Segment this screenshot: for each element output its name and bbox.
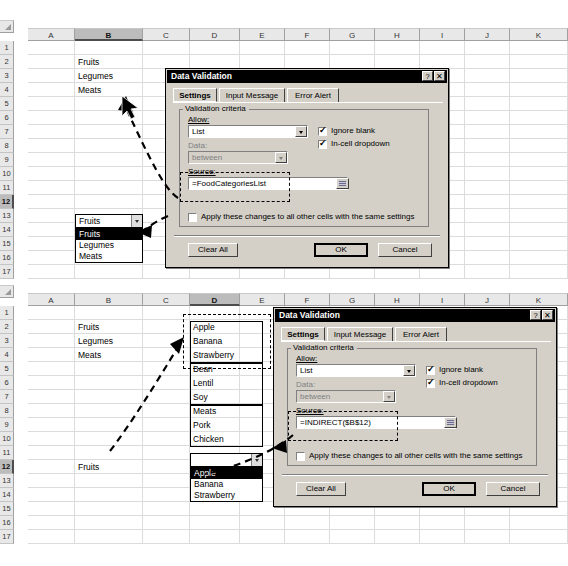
dropdown-list-bottom[interactable]: Apple Banana Strawberry <box>190 467 263 502</box>
data-validation-dialog-top[interactable]: Data Validation ? ✕ Settings Input Messa… <box>165 68 449 268</box>
cell-d16[interactable] <box>190 516 240 530</box>
cell-g17[interactable] <box>330 530 375 544</box>
cell-k7[interactable] <box>510 125 568 139</box>
row-header-17[interactable]: 17 <box>0 530 14 544</box>
row-header-9[interactable]: 9 <box>0 153 14 167</box>
clear-all-button[interactable]: Clear All <box>188 243 238 257</box>
cell-b1[interactable] <box>75 41 143 55</box>
cell-j1[interactable] <box>465 41 510 55</box>
cell-j8[interactable] <box>465 139 510 153</box>
cell-k15[interactable] <box>510 237 568 251</box>
chevron-down-icon[interactable] <box>295 126 307 137</box>
row-header-1[interactable]: 1 <box>0 41 14 55</box>
cell-b17[interactable] <box>75 530 143 544</box>
cell-b6[interactable] <box>75 376 143 390</box>
row-header-7[interactable]: 7 <box>0 125 14 139</box>
column-header-i[interactable]: I <box>420 293 465 306</box>
cancel-button[interactable]: Cancel <box>486 482 540 496</box>
allow-combo[interactable]: List <box>188 125 308 138</box>
row-header-6[interactable]: 6 <box>0 376 14 390</box>
row-header-14[interactable]: 14 <box>0 488 14 502</box>
row-header-11[interactable]: 11 <box>0 181 14 195</box>
cell-f16[interactable] <box>285 516 330 530</box>
cell-a6[interactable] <box>28 376 75 390</box>
column-header-f[interactable]: F <box>285 293 330 306</box>
cell-c12[interactable] <box>143 460 190 474</box>
cell-a12[interactable] <box>28 460 75 474</box>
row-header-10[interactable]: 10 <box>0 432 14 446</box>
cell-b7[interactable] <box>75 125 143 139</box>
cell-j15[interactable] <box>465 237 510 251</box>
tab-error-alert[interactable]: Error Alert <box>395 327 447 341</box>
cell-a9[interactable] <box>28 153 75 167</box>
cell-c14[interactable] <box>143 488 190 502</box>
cell-h16[interactable] <box>375 516 420 530</box>
cell-j11[interactable] <box>465 181 510 195</box>
row-header-3[interactable]: 3 <box>0 334 14 348</box>
close-button[interactable]: ✕ <box>542 310 553 320</box>
cell-a14[interactable] <box>28 223 75 237</box>
cell-e2[interactable] <box>240 55 285 69</box>
cell-a10[interactable] <box>28 167 75 181</box>
cell-k14[interactable] <box>510 223 568 237</box>
cell-c1[interactable] <box>143 41 190 55</box>
list-item[interactable]: Fruits <box>76 229 142 240</box>
cell-d2[interactable] <box>190 55 240 69</box>
tab-settings[interactable]: Settings <box>173 88 217 102</box>
cell-b11[interactable] <box>75 181 143 195</box>
cell-g1[interactable] <box>330 41 375 55</box>
select-all-corner[interactable] <box>0 285 14 298</box>
dropdown-list-top[interactable]: Fruits Legumes Meats <box>75 228 143 263</box>
cell-k17[interactable] <box>510 265 568 279</box>
tab-error-alert[interactable]: Error Alert <box>287 88 339 102</box>
cell-c11[interactable] <box>143 446 190 460</box>
cell-a17[interactable] <box>28 265 75 279</box>
row-header-5[interactable]: 5 <box>0 97 14 111</box>
range-selector-icon[interactable] <box>336 178 349 189</box>
cell-j3[interactable] <box>465 69 510 83</box>
cell-k6[interactable] <box>510 111 568 125</box>
cell-d1[interactable] <box>190 41 240 55</box>
cell-k12[interactable] <box>510 195 568 209</box>
ok-button[interactable]: OK <box>422 482 476 496</box>
cell-k10[interactable] <box>510 167 568 181</box>
range-selector-icon[interactable] <box>444 417 457 428</box>
cell-k3[interactable] <box>510 69 568 83</box>
cell-b15[interactable] <box>75 502 143 516</box>
cell-b8[interactable] <box>75 139 143 153</box>
cell-a16[interactable] <box>28 516 75 530</box>
cell-b5[interactable] <box>75 97 143 111</box>
cell-k16[interactable] <box>510 251 568 265</box>
cell-a1[interactable] <box>28 306 75 320</box>
row-header-14[interactable]: 14 <box>0 223 14 237</box>
cell-e17[interactable] <box>240 530 285 544</box>
cell-a5[interactable] <box>28 97 75 111</box>
cell-a13[interactable] <box>28 474 75 488</box>
row-header-9[interactable]: 9 <box>0 418 14 432</box>
cell-b3[interactable]: Legumes <box>75 334 143 348</box>
cell-b2[interactable]: Fruits <box>75 320 143 334</box>
apply-all-checkbox[interactable] <box>296 452 305 461</box>
help-button[interactable]: ? <box>422 71 433 81</box>
cell-e1[interactable] <box>240 41 285 55</box>
cell-j16[interactable] <box>465 516 510 530</box>
cell-a16[interactable] <box>28 251 75 265</box>
cell-a15[interactable] <box>28 502 75 516</box>
cell-b12[interactable] <box>75 195 143 209</box>
cell-i2[interactable] <box>420 55 465 69</box>
cell-j2[interactable] <box>465 55 510 69</box>
row-header-4[interactable]: 4 <box>0 83 14 97</box>
cell-a7[interactable] <box>28 125 75 139</box>
cell-j12[interactable] <box>465 195 510 209</box>
cell-a4[interactable] <box>28 348 75 362</box>
cell-g2[interactable] <box>330 55 375 69</box>
cell-h1[interactable] <box>375 41 420 55</box>
column-header-d[interactable]: D <box>190 293 240 306</box>
row-header-16[interactable]: 16 <box>0 251 14 265</box>
cell-dropdown-d12[interactable] <box>190 453 263 467</box>
cell-c9[interactable] <box>143 418 190 432</box>
column-header-a[interactable]: A <box>28 293 75 306</box>
help-button[interactable]: ? <box>530 310 541 320</box>
row-header-3[interactable]: 3 <box>0 69 14 83</box>
cell-b9[interactable] <box>75 418 143 432</box>
